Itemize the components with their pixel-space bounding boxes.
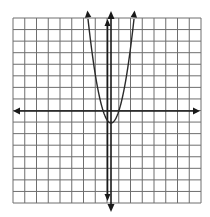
y-axis-down-arrow-icon bbox=[108, 204, 115, 212]
y-axis-up-arrow-icon bbox=[108, 11, 115, 19]
coordinate-graph bbox=[0, 0, 210, 217]
vertical-line-up-arrow-icon bbox=[105, 19, 111, 26]
vertical-line-down-arrow-icon bbox=[105, 194, 111, 201]
parabola-right-arrow-icon bbox=[131, 11, 137, 18]
x-axis-right-arrow-icon bbox=[193, 108, 200, 115]
x-axis-left-arrow-icon bbox=[13, 108, 20, 115]
parabola-left-arrow-icon bbox=[85, 11, 91, 18]
